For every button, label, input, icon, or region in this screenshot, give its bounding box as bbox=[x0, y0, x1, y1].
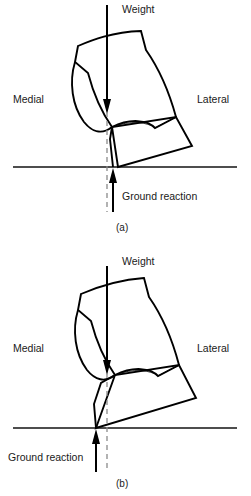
ground-reaction-vector-arrowhead-b bbox=[92, 429, 100, 444]
medial-condyle-curve-b bbox=[75, 310, 115, 380]
figure-container: Weight Medial Lateral Ground reaction (a… bbox=[0, 0, 251, 496]
weight-vector-arrowhead-a bbox=[103, 99, 111, 114]
panel-b: Weight Medial Lateral Ground reaction (b… bbox=[8, 255, 237, 489]
ground-reaction-label-b: Ground reaction bbox=[8, 451, 83, 463]
panel-a: Weight Medial Lateral Ground reaction (a… bbox=[13, 3, 237, 233]
lateral-label-b: Lateral bbox=[197, 342, 229, 354]
lateral-label-a: Lateral bbox=[197, 93, 229, 105]
medial-label-b: Medial bbox=[13, 342, 44, 354]
ground-reaction-vector-arrowhead-a bbox=[109, 168, 117, 183]
panel-caption-a: (a) bbox=[116, 222, 128, 233]
weight-label-a: Weight bbox=[122, 3, 155, 15]
panel-caption-b: (b) bbox=[116, 478, 128, 489]
weight-label-b: Weight bbox=[122, 255, 155, 267]
leg-segment-outline-a bbox=[75, 31, 176, 128]
biomechanics-figure: Weight Medial Lateral Ground reaction (a… bbox=[0, 0, 251, 496]
foot-segment-outline-b bbox=[96, 365, 196, 428]
ground-reaction-label-a: Ground reaction bbox=[122, 190, 197, 202]
medial-label-a: Medial bbox=[13, 93, 44, 105]
leg-segment-outline-b bbox=[78, 278, 179, 376]
